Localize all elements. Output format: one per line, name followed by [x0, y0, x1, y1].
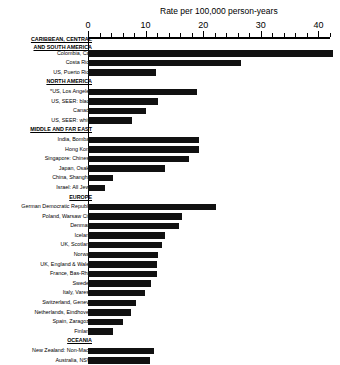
x-axis-minor-tick — [272, 33, 273, 37]
chart-bar — [88, 300, 136, 306]
chart-bar-row: Spain, Zaragoza — [0, 317, 340, 327]
x-axis-minor-tick — [249, 33, 250, 37]
x-axis-major-tick — [261, 31, 262, 37]
chart-group-header-row: CARIBBEAN, CENTRALAND SOUTH AMERICA — [0, 39, 340, 49]
chart-bar — [88, 69, 156, 75]
x-axis-minor-tick — [284, 33, 285, 37]
chart-bar — [88, 50, 333, 56]
chart-bar-row: US, Puerto Rico — [0, 68, 340, 78]
chart-bar-row: US, SEER: black — [0, 97, 340, 107]
chart-bar — [88, 117, 132, 123]
chart-bar-row: Norway — [0, 250, 340, 260]
bar-category-label: Poland, Warsaw City — [42, 212, 92, 222]
chart-bar — [88, 137, 199, 143]
chart-bar-row: Iceland — [0, 231, 340, 241]
x-axis-minor-tick — [226, 33, 227, 37]
chart-bar — [88, 319, 123, 325]
x-axis-minor-tick — [180, 33, 181, 37]
chart-bar-row: Netherlands, Eindhoven — [0, 308, 340, 318]
bar-category-label: US, SEER: white — [51, 116, 92, 126]
chart-bar — [88, 185, 105, 191]
x-axis-major-tick — [203, 31, 204, 37]
x-axis-minor-tick — [123, 33, 124, 37]
chart-bar-row: Israel: All Jews — [0, 183, 340, 193]
chart-bar — [88, 108, 146, 114]
chart-bar — [88, 213, 182, 219]
chart-bar-row: Japan, Osaka — [0, 164, 340, 174]
chart-bar — [88, 146, 199, 152]
x-tick-label: 0 — [85, 20, 90, 30]
chart-bar-row: *US, Los Angeles — [0, 87, 340, 97]
bar-category-label: US, Puerto Rico — [53, 68, 92, 78]
bar-category-label: Australia, NSW — [55, 356, 92, 365]
chart-bar-row: UK, Scotland — [0, 240, 340, 250]
chart-group-header-row: MIDDLE AND FAR EAST — [0, 125, 340, 135]
chart-bar — [88, 89, 197, 95]
chart-bar — [88, 165, 165, 171]
bar-category-label: Netherlands, Eindhoven — [34, 308, 92, 318]
x-tick-label: 40 — [313, 20, 323, 30]
chart-bar-row: France, Bas-Rhin — [0, 269, 340, 279]
chart-bar — [88, 357, 150, 363]
bar-category-label: India, Bombay — [58, 135, 92, 145]
chart-bar-row: Switzerland, Geneva — [0, 298, 340, 308]
group-header-label: OCEANIA — [67, 336, 92, 346]
chart-bar — [88, 60, 241, 66]
bar-category-label: France, Bas-Rhin — [50, 269, 92, 279]
chart-bar-row: India, Bombay — [0, 135, 340, 145]
x-tick-label: 30 — [256, 20, 266, 30]
group-header-label: MIDDLE AND FAR EAST — [30, 125, 92, 135]
chart-bar — [88, 328, 113, 334]
chart-bar-row: Canada — [0, 106, 340, 116]
x-axis-minor-tick — [215, 33, 216, 37]
x-axis-minor-tick — [134, 33, 135, 37]
chart-bar — [88, 309, 131, 315]
chart-bar-row: New Zealand: Non-Maori — [0, 346, 340, 356]
x-axis-minor-tick — [238, 33, 239, 37]
chart-bar — [88, 280, 151, 286]
chart-group-header-row: EUROPE — [0, 193, 340, 203]
chart-bar — [88, 252, 158, 258]
x-axis-minor-tick — [192, 33, 193, 37]
x-axis-tick-labels: 010203040 — [0, 20, 340, 32]
x-axis-minor-tick — [330, 33, 331, 37]
chart-bar — [88, 156, 189, 162]
bar-category-label: New Zealand: Non-Maori — [32, 346, 92, 356]
chart-bar-row: UK, England & Wales — [0, 260, 340, 270]
x-tick-label: 10 — [141, 20, 151, 30]
chart-bar-row: Sweden — [0, 279, 340, 289]
chart-bar — [88, 223, 179, 229]
x-axis-minor-tick — [157, 33, 158, 37]
x-axis-minor-tick — [100, 33, 101, 37]
bar-category-label: Spain, Zaragoza — [52, 317, 92, 327]
chart-bar — [88, 348, 154, 354]
chart-bar — [88, 204, 216, 210]
bar-category-label: Singapore: Chinese — [45, 154, 92, 164]
bar-category-label: Japan, Osaka — [59, 164, 92, 174]
x-axis-minor-tick — [111, 33, 112, 37]
chart-bar-row: Costa Rica — [0, 58, 340, 68]
bar-category-label: US, SEER: black — [51, 97, 92, 107]
chart-bar — [88, 175, 113, 181]
x-axis-major-tick — [146, 31, 147, 37]
chart-bar — [88, 242, 162, 248]
chart-bar-row: German Democratic Republic — [0, 202, 340, 212]
bar-category-label: *US, Los Angeles — [50, 87, 92, 97]
bar-category-label: German Democratic Republic — [21, 202, 92, 212]
x-tick-label: 20 — [198, 20, 208, 30]
chart-axis-title: Rate per 100,000 person-years — [160, 6, 278, 16]
chart-bar-row: Poland, Warsaw City — [0, 212, 340, 222]
chart-bar-row: Italy, Varese — [0, 288, 340, 298]
group-header-label: NORTH AMERICA — [46, 77, 92, 87]
chart-bar-row: Denmark — [0, 221, 340, 231]
chart-bar-row: Australia, NSW — [0, 356, 340, 365]
chart-bar — [88, 261, 157, 267]
chart-bar — [88, 290, 145, 296]
chart-bar — [88, 98, 158, 104]
chart-bar-row: Finland — [0, 327, 340, 337]
chart-group-header-row: NORTH AMERICA — [0, 77, 340, 87]
bar-category-label: Colombia, Cali — [57, 49, 92, 59]
chart-bar-row: Singapore: Chinese — [0, 154, 340, 164]
chart-bar-row: China, Shanghai — [0, 173, 340, 183]
chart-bar — [88, 271, 157, 277]
